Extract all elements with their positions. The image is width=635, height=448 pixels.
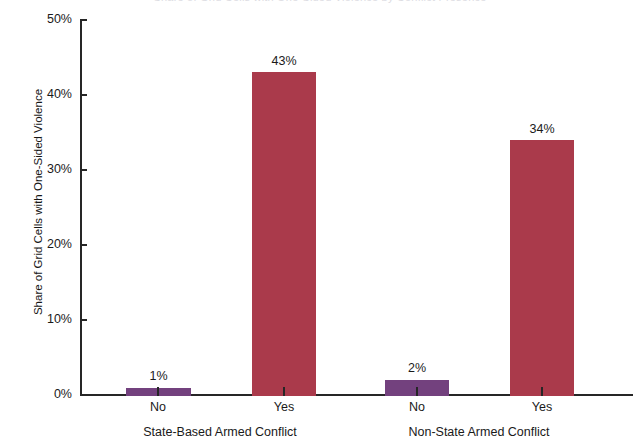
bar-value-state-based-no: 1% (126, 369, 191, 383)
bar-non-state-yes[interactable] (510, 140, 574, 396)
x-tick-state-based-yes (283, 387, 285, 396)
x-tick-non-state-no (416, 387, 418, 396)
bar-value-state-based-yes: 43% (252, 54, 316, 68)
y-axis-line (80, 19, 82, 396)
bar-state-based-yes[interactable] (252, 72, 316, 396)
y-tick-20 (80, 244, 87, 246)
chart-title: Share of Grid Cells with One-Sided Viole… (150, 0, 490, 3)
x-tick-label-state-based-yes: Yes (229, 400, 339, 414)
bar-chart: Share of Grid Cells with One-Sided Viole… (0, 0, 635, 448)
y-tick-label-0: 0% (14, 387, 72, 401)
bar-value-non-state-yes: 34% (510, 122, 574, 136)
group-label-state-based: State-Based Armed Conflict (90, 425, 350, 439)
x-tick-non-state-yes (541, 387, 543, 396)
y-tick-label-10: 10% (14, 312, 72, 326)
x-tick-label-non-state-no: No (362, 400, 472, 414)
y-tick-label-30: 30% (14, 162, 72, 176)
y-tick-30 (80, 169, 87, 171)
y-tick-40 (80, 94, 87, 96)
y-tick-0 (80, 394, 87, 396)
x-tick-state-based-no (157, 387, 159, 396)
group-label-non-state: Non-State Armed Conflict (349, 425, 609, 439)
x-tick-label-state-based-no: No (103, 400, 213, 414)
y-tick-label-40: 40% (14, 87, 72, 101)
y-tick-10 (80, 319, 87, 321)
y-tick-label-20: 20% (14, 237, 72, 251)
x-tick-label-non-state-yes: Yes (487, 400, 597, 414)
y-tick-50 (80, 19, 87, 21)
bar-value-non-state-no: 2% (385, 361, 449, 375)
y-tick-label-50: 50% (14, 12, 72, 26)
